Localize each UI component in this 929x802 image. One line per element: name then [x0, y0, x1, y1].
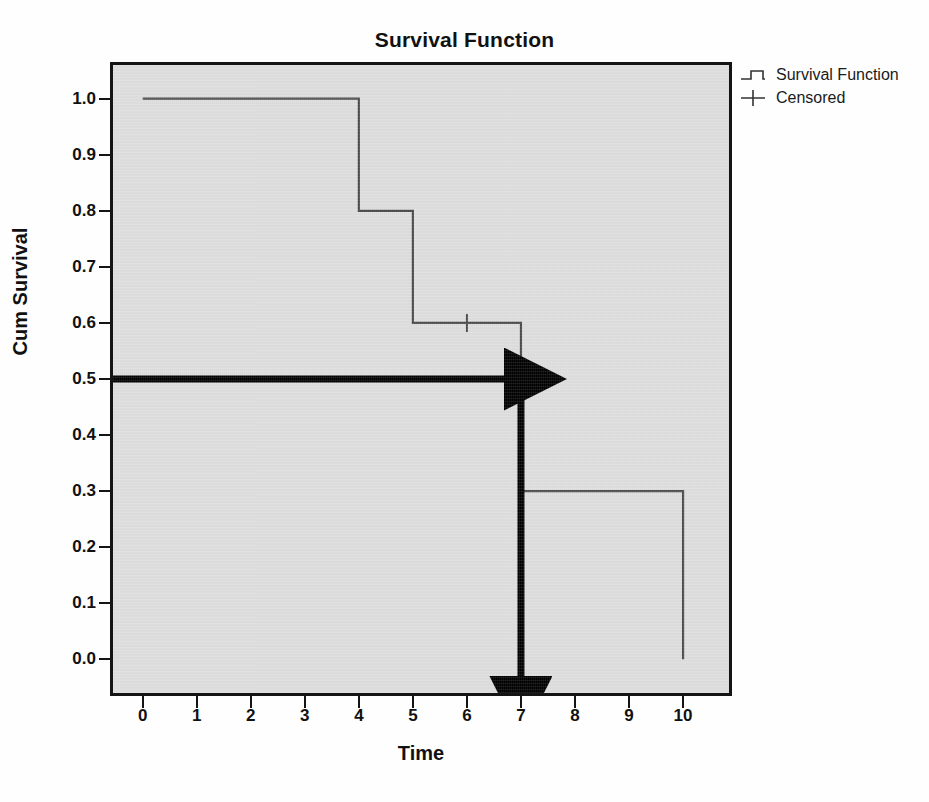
y-axis-tick-label: 0.4	[50, 425, 96, 445]
y-axis-tick-label: 0.9	[50, 145, 96, 165]
x-axis-tick-label: 3	[285, 706, 325, 726]
y-axis-label: Cum Survival	[9, 192, 32, 392]
plot-area	[110, 62, 732, 696]
x-axis-tick-label: 5	[393, 706, 433, 726]
legend-item-survival-function: Survival Function	[740, 64, 925, 86]
median-survival-annotation	[113, 379, 521, 683]
step-line-icon	[740, 66, 774, 84]
x-axis-tick-label: 9	[609, 706, 649, 726]
legend-label-survival-function: Survival Function	[776, 66, 899, 84]
x-axis-tick-label: 6	[447, 706, 487, 726]
legend-item-censored: Censored	[740, 87, 925, 109]
y-axis-tick-label: 0.3	[50, 481, 96, 501]
x-axis-tick-label: 2	[231, 706, 271, 726]
y-axis-tick-label: 0.8	[50, 201, 96, 221]
y-axis-tick-label: 0.2	[50, 537, 96, 557]
y-axis-tick-label: 0.7	[50, 257, 96, 277]
page-title: Survival Function	[0, 28, 929, 52]
y-axis-tick-labels: 0.00.10.20.30.40.50.60.70.80.91.0	[50, 62, 96, 696]
chart-legend: Survival Function Censored	[740, 64, 925, 110]
x-axis-tick-label: 10	[663, 706, 703, 726]
x-axis-tick-label: 4	[339, 706, 379, 726]
x-axis-tick-label: 1	[177, 706, 217, 726]
plot-canvas	[113, 65, 729, 693]
x-axis-tick-labels: 012345678910	[110, 706, 732, 732]
x-axis-tick-label: 7	[501, 706, 541, 726]
survival-function-figure: Survival Function Cum Survival Time 0.00…	[0, 0, 929, 802]
y-axis-tick-label: 0.6	[50, 313, 96, 333]
y-axis-tick-label: 0.5	[50, 369, 96, 389]
y-axis-tick-label: 0.1	[50, 593, 96, 613]
y-axis-tick-label: 0.0	[50, 649, 96, 669]
x-axis-tick-label: 8	[555, 706, 595, 726]
x-axis-label: Time	[110, 742, 732, 765]
plus-marker-icon	[740, 89, 774, 107]
y-axis-tick-label: 1.0	[50, 89, 96, 109]
legend-label-censored: Censored	[776, 89, 845, 107]
x-axis-tick-label: 0	[123, 706, 163, 726]
